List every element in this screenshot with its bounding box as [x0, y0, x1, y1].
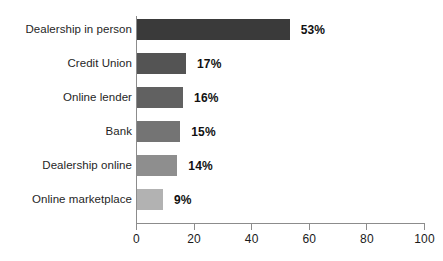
x-axis-tick-label: 80 [360, 232, 374, 246]
bar [137, 19, 290, 40]
bar [137, 121, 180, 142]
x-axis-tick [366, 224, 367, 230]
category-label: Dealership in person [26, 23, 132, 35]
x-axis-tick [194, 224, 195, 230]
x-axis-tick-label: 20 [187, 232, 201, 246]
bar [137, 189, 163, 210]
bar-value-label: 53% [301, 23, 326, 37]
bar-chart: 020406080100 Dealership in personCredit … [0, 0, 443, 261]
category-label: Online marketplace [32, 193, 132, 205]
category-label: Online lender [63, 91, 132, 103]
bar [137, 155, 177, 176]
x-axis-tick [309, 224, 310, 230]
bar-value-label: 15% [191, 125, 216, 139]
bar-value-label: 14% [188, 159, 213, 173]
category-label: Credit Union [67, 57, 132, 69]
bar-value-label: 17% [197, 57, 222, 71]
x-axis-tick [136, 224, 137, 230]
bar-value-label: 9% [174, 193, 192, 207]
bar [137, 87, 183, 108]
bar-value-label: 16% [194, 91, 219, 105]
x-axis-tick-label: 0 [133, 232, 140, 246]
x-axis-tick [251, 224, 252, 230]
x-axis-line [136, 223, 425, 224]
category-label: Bank [106, 125, 132, 137]
x-axis-tick-label: 40 [245, 232, 259, 246]
plot-area: 020406080100 Dealership in personCredit … [0, 0, 443, 261]
x-axis-tick-label: 100 [414, 232, 435, 246]
bar [137, 53, 186, 74]
x-axis-tick-label: 60 [302, 232, 316, 246]
x-axis-tick [424, 224, 425, 230]
category-label: Dealership online [42, 159, 132, 171]
